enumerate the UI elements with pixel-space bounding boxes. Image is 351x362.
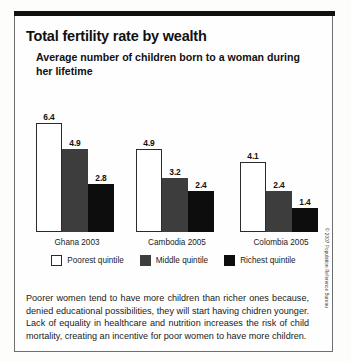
credit-text: © 2007 Population Reference Bureau xyxy=(324,228,329,348)
bar-column[interactable]: 2.4 xyxy=(266,180,292,232)
bar-group-bars: 4.93.22.4 xyxy=(136,138,214,232)
bar-column[interactable]: 4.9 xyxy=(136,138,162,232)
legend-swatch-icon xyxy=(140,255,151,266)
group-axis-label: Ghana 2003 xyxy=(36,238,118,247)
bar-value-label: 3.2 xyxy=(169,167,180,177)
bar[interactable] xyxy=(88,184,114,232)
bar-column[interactable]: 4.9 xyxy=(62,138,88,232)
legend-swatch-icon xyxy=(224,255,235,266)
bar-group-bars: 4.12.41.4 xyxy=(240,151,318,232)
group-axis-label: Colombia 2005 xyxy=(240,238,322,247)
bar[interactable] xyxy=(188,191,214,232)
caption-text: Poorer women tend to have more children … xyxy=(26,292,309,342)
bar-value-label: 4.9 xyxy=(69,138,80,148)
bar-value-label: 2.8 xyxy=(95,173,106,183)
bar[interactable] xyxy=(36,123,62,232)
legend-label: Middle quintile xyxy=(156,256,208,265)
bar-value-label: 2.4 xyxy=(195,180,206,190)
infographic-page: Total fertility rate by wealth Average n… xyxy=(0,0,351,362)
bar[interactable] xyxy=(240,162,266,232)
chart-legend: Poorest quintileMiddle quintileRichest q… xyxy=(14,255,333,266)
bar-chart-plot: 6.44.92.8Ghana 20034.93.22.4Cambodia 200… xyxy=(14,100,333,250)
page-title: Total fertility rate by wealth xyxy=(26,28,207,44)
bar-value-label: 1.4 xyxy=(299,197,310,207)
bar[interactable] xyxy=(292,208,318,232)
bar-value-label: 4.9 xyxy=(143,138,154,148)
bar-column[interactable]: 4.1 xyxy=(240,151,266,232)
bar[interactable] xyxy=(62,149,88,232)
bar-column[interactable]: 2.4 xyxy=(188,180,214,232)
bar-column[interactable]: 1.4 xyxy=(292,197,318,232)
bar-column[interactable]: 6.4 xyxy=(36,112,62,232)
bar-value-label: 2.4 xyxy=(273,180,284,190)
legend-item[interactable]: Middle quintile xyxy=(140,255,208,266)
bar-column[interactable]: 3.2 xyxy=(162,167,188,232)
legend-label: Richest quintile xyxy=(240,256,296,265)
bar-group-bars: 6.44.92.8 xyxy=(36,112,114,232)
bar[interactable] xyxy=(136,149,162,232)
bar[interactable] xyxy=(266,191,292,232)
bar-value-label: 6.4 xyxy=(43,112,54,122)
bar-value-label: 4.1 xyxy=(247,151,258,161)
legend-item[interactable]: Poorest quintile xyxy=(51,255,123,266)
bar[interactable] xyxy=(162,178,188,232)
legend-item[interactable]: Richest quintile xyxy=(224,255,296,266)
group-axis-label: Cambodia 2005 xyxy=(136,238,218,247)
legend-label: Poorest quintile xyxy=(67,256,123,265)
page-subtitle: Average number of children born to a wom… xyxy=(36,50,312,78)
bar-column[interactable]: 2.8 xyxy=(88,173,114,232)
legend-swatch-icon xyxy=(51,255,62,266)
